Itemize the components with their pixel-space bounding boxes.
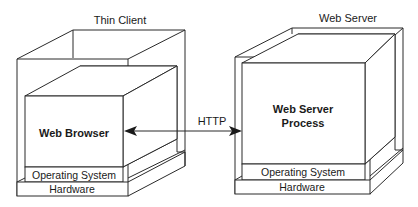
thin-client-os-layer: Operating System [25,167,123,182]
web-server-process-box: Web Server Process [242,34,395,164]
thin-client-os-label: Operating System [32,169,116,181]
web-server-os-layer: Operating System [242,164,365,180]
architecture-diagram: Web Browser Operating System Hardware Th… [0,0,418,207]
web-browser-label: Web Browser [39,127,110,139]
web-server-os-label: Operating System [261,166,345,178]
thin-client-node: Web Browser Operating System Hardware Th… [17,14,185,196]
web-browser-box: Web Browser [25,66,177,167]
web-server-process-label-line1: Web Server [273,103,334,115]
web-server-title: Web Server [319,12,377,24]
thin-client-hardware-label: Hardware [49,183,95,195]
web-server-process-label-line2: Process [282,117,325,129]
thin-client-title: Thin Client [94,14,147,26]
web-server-hardware-label: Hardware [279,181,325,193]
web-server-node: Web Server Process Operating System Hard… [235,12,403,194]
http-label: HTTP [198,115,227,127]
